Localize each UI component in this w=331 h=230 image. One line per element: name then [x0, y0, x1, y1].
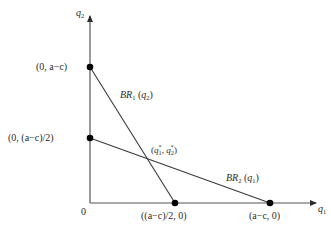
br1-label-sub: 1 — [132, 94, 135, 101]
eq-q2-sub: 2 — [171, 149, 174, 156]
br2-label-sub: 2 — [238, 177, 241, 184]
origin-label: 0 — [81, 207, 86, 217]
br2-line — [90, 138, 270, 203]
br1-label-arg-sub: 2 — [146, 94, 149, 101]
eq-q1-sub: 1 — [159, 149, 162, 156]
br2-label-arg-sub: 1 — [252, 177, 255, 184]
label-y-intercept-br2: (0, (a−c)/2) — [8, 133, 54, 143]
point-x-intercept-br1 — [172, 200, 179, 207]
x-axis-label: q1 — [318, 204, 326, 216]
point-x-intercept-br2 — [267, 200, 274, 207]
br2-label: BR2 (q1) — [226, 173, 259, 185]
label-x-intercept-br1: ((a−c)/2, 0) — [141, 211, 187, 221]
br1-label: BR1 (q2) — [120, 90, 153, 102]
label-y-intercept-br1: (0, a−c) — [36, 62, 67, 72]
y-axis-label-sub: 2 — [81, 12, 84, 19]
best-response-diagram: q2 q1 0 (0, a−c) (0, (a−c)/2) ((a−c)/2, … — [0, 0, 331, 230]
equilibrium-label: (q*1, q*2) — [151, 144, 177, 157]
br1-label-main: BR — [120, 89, 132, 100]
y-axis-label: q2 — [76, 8, 84, 20]
x-axis-label-sub: 1 — [323, 208, 326, 215]
br2-label-main: BR — [226, 172, 238, 183]
br1-line — [90, 67, 175, 203]
diagram-canvas — [0, 0, 331, 230]
point-y-intercept-br1 — [87, 64, 94, 71]
label-x-intercept-br2: (a−c, 0) — [249, 211, 280, 221]
point-y-intercept-br2 — [87, 135, 94, 142]
